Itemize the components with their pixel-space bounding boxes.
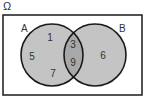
- element-7: 7: [50, 68, 56, 79]
- set-a-label: A: [21, 23, 28, 34]
- set-b-label: B: [119, 23, 126, 34]
- element-6: 6: [100, 50, 106, 61]
- venn-diagram: Ω A B 1 5 7 3 9 6: [0, 0, 145, 99]
- element-1: 1: [47, 32, 53, 43]
- element-3: 3: [70, 39, 76, 50]
- universe-label: Ω: [3, 0, 11, 12]
- element-9: 9: [70, 57, 76, 68]
- element-5: 5: [29, 51, 35, 62]
